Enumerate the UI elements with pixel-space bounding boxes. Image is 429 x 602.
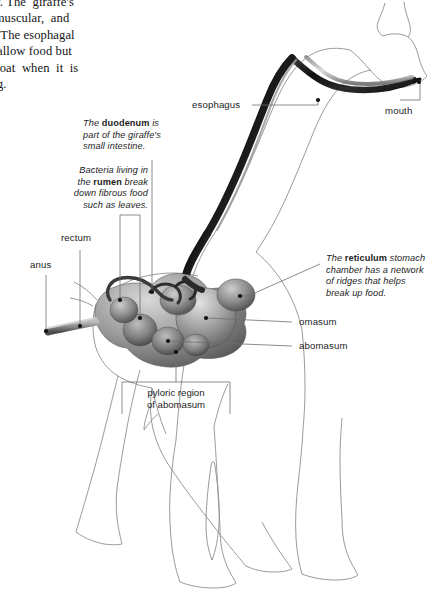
note-rumen-l2-post: break <box>122 177 148 187</box>
dot-pyloric <box>174 350 178 354</box>
dot-omasum <box>204 316 208 320</box>
article-body-text: sionally. The giraffe's g and muscular, … <box>0 0 168 92</box>
note-rumen-term: rumen <box>93 177 122 187</box>
label-abomasum: abomasum <box>299 340 348 351</box>
dot-esophagus <box>316 98 320 102</box>
note-rumen: Bacteria living in the rumen break down … <box>38 165 148 211</box>
diagram-page: sionally. The giraffe's g and muscular, … <box>0 0 429 602</box>
note-rumen-l3: down fibrous food <box>74 188 148 198</box>
note-reticulum: The reticulum stomach chamber has a netw… <box>326 253 429 299</box>
note-duodenum-l1-post: is <box>150 118 160 128</box>
dot-anus <box>44 329 48 333</box>
note-duodenum: The duodenum is part of the giraffe's sm… <box>83 118 193 153</box>
note-reticulum-l1-post: stomach <box>387 253 425 263</box>
note-duodenum-l1-pre: The <box>83 118 102 128</box>
label-omasum: omasum <box>299 316 337 327</box>
label-esophagus: esophagus <box>192 99 240 110</box>
note-reticulum-l1-pre: The <box>326 253 345 263</box>
note-pyloric-l2: of abomasum <box>147 399 205 410</box>
label-mouth: mouth <box>385 105 412 116</box>
dot-rumen-b <box>138 316 142 320</box>
note-duodenum-l2: part of the giraffe's <box>83 130 161 140</box>
note-duodenum-term: duodenum <box>102 118 150 128</box>
dot-rumen-a <box>118 298 122 302</box>
dot-reticulum <box>238 294 242 298</box>
note-rumen-l2-pre: the <box>78 177 94 187</box>
note-rumen-l1: Bacteria living in <box>79 165 148 175</box>
stomach-organ-mass <box>48 273 255 367</box>
label-anus: anus <box>30 259 51 270</box>
note-pyloric-region: pyloric region of abomasum <box>122 387 230 411</box>
label-rectum: rectum <box>61 232 91 243</box>
note-pyloric-l1: pyloric region <box>147 387 204 398</box>
note-reticulum-term: reticulum <box>345 253 387 263</box>
note-reticulum-l2: chamber has a network <box>326 265 424 275</box>
dot-mouth <box>417 80 421 84</box>
note-reticulum-l3: of ridges that helps <box>326 276 406 286</box>
dot-duodenum <box>150 290 154 294</box>
note-reticulum-l4: break up food. <box>326 288 386 298</box>
dot-abomasum <box>166 339 170 343</box>
note-duodenum-l3: small intestine. <box>83 141 145 151</box>
note-rumen-l4: such as leaves. <box>83 200 148 210</box>
esophagus-organ <box>185 57 420 279</box>
dot-rectum <box>78 324 82 328</box>
